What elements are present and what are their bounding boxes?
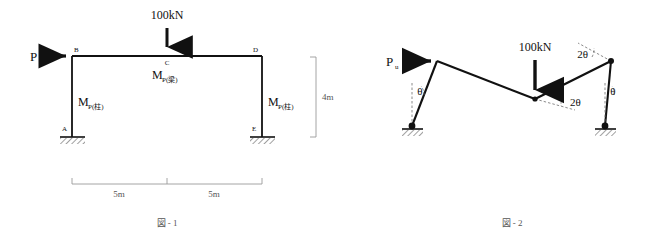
angle-tick-right-joint xyxy=(592,48,594,57)
angle-label-right-column: θ xyxy=(610,85,615,97)
fixed-support-a xyxy=(60,137,85,144)
svg-text:P: P xyxy=(386,54,393,69)
node-label-e: E xyxy=(252,125,256,133)
span-right-label: 5m xyxy=(208,189,220,199)
figure-2-caption: 図 - 2 xyxy=(502,218,523,228)
structural-diagrams-svg: 100kN P A B C D E M P(柱) M P(梁) M xyxy=(0,0,659,244)
pin-support-right-fig2 xyxy=(595,123,616,136)
mech-left-beam xyxy=(437,61,535,99)
height-dimension-line xyxy=(310,57,316,137)
svg-text:P(柱): P(柱) xyxy=(278,102,294,111)
angle-label-right-joint: 2θ xyxy=(577,48,588,60)
angle-tick-center xyxy=(561,97,563,106)
svg-text:u: u xyxy=(395,63,399,71)
load-label-fig2: 100kN xyxy=(519,40,552,54)
diagram-canvas: 100kN P A B C D E M P(柱) M P(梁) M xyxy=(0,0,659,244)
figure-1-caption: 図 - 1 xyxy=(157,218,178,228)
node-label-d: D xyxy=(253,46,258,54)
angle-label-center-hinge: 2θ xyxy=(570,96,581,108)
pin-support-left-fig2 xyxy=(402,123,423,136)
plastic-hinge-center xyxy=(532,96,537,101)
figure-2-group: 100kN P u θ 2θ 2θ θ 図 - 2 xyxy=(386,40,616,228)
node-label-b: B xyxy=(74,46,79,54)
svg-text:P(柱): P(柱) xyxy=(88,102,104,111)
height-label: 4m xyxy=(322,92,334,102)
moment-label-beam-center: M P(梁) xyxy=(152,68,178,84)
load-label-fig1: 100kN xyxy=(151,8,184,22)
span-dimension-line xyxy=(72,178,262,184)
node-label-a: A xyxy=(62,125,67,133)
mech-left-column xyxy=(412,61,437,126)
lateral-force-label-fig2: P u xyxy=(386,54,399,71)
angle-label-left-column: θ xyxy=(417,85,422,97)
moment-label-column-left: M P(柱) xyxy=(78,95,104,111)
fixed-support-e xyxy=(250,137,275,144)
ref-dashed-center-beam xyxy=(535,99,575,110)
svg-text:P(梁): P(梁) xyxy=(162,75,178,84)
plastic-hinge-right-joint xyxy=(608,58,614,64)
node-label-c: C xyxy=(165,59,170,67)
mech-right-beam xyxy=(535,61,611,99)
lateral-force-label-fig1: P xyxy=(30,49,37,64)
moment-label-column-right: M P(柱) xyxy=(268,95,294,111)
figure-1-group: 100kN P A B C D E M P(柱) M P(梁) M xyxy=(30,8,334,228)
span-left-label: 5m xyxy=(113,189,125,199)
